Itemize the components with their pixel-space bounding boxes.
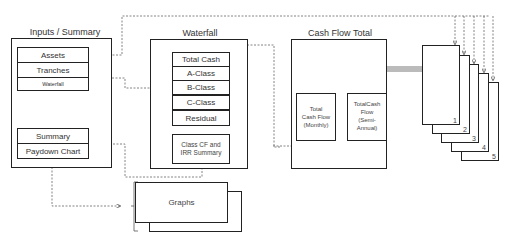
monthly-cash-flow-box: Total Cash Flow (Monthly)	[296, 93, 336, 141]
summary-line-2: IRR Summary	[173, 149, 229, 157]
inputs-summary-title: Inputs / Summary	[10, 27, 120, 37]
paydown-chart-cell: Paydown Chart	[17, 143, 89, 159]
semi-line-1: TotalCash	[348, 100, 386, 108]
page-5-number: 5	[492, 153, 496, 160]
waterfall-cell: Waterfall	[17, 77, 89, 91]
page-3-number: 3	[472, 135, 476, 142]
graphs-box: Graphs	[135, 182, 228, 223]
semi-line-2: Flow	[348, 108, 386, 116]
monthly-line-1: Total	[297, 105, 335, 113]
waterfall-title: Waterfall	[150, 28, 250, 38]
cash-flow-total-title: Cash Flow Total	[290, 28, 390, 38]
c-class-cell: C-Class	[172, 95, 230, 110]
class-cf-irr-summary-box: Class CF and IRR Summary	[172, 134, 230, 164]
monthly-line-3: (Monthly)	[297, 121, 335, 129]
page-1-number: 1	[453, 117, 457, 124]
tranches-cell: Tranches	[17, 62, 89, 78]
graphs-label: Graphs	[168, 198, 194, 207]
page-1: 1	[422, 45, 460, 125]
monthly-line-2: Cash Flow	[297, 113, 335, 121]
summary-line-1: Class CF and	[173, 141, 229, 149]
semi-annual-cash-flow-box: TotalCash Flow (Semi- Annual)	[347, 93, 387, 141]
b-class-cell: B-Class	[172, 80, 230, 95]
residual-cell: Residual	[172, 110, 230, 126]
semi-line-4: Annual)	[348, 124, 386, 132]
page-2-number: 2	[463, 126, 467, 133]
assets-cell: Assets	[17, 47, 89, 63]
semi-line-3: (Semi-	[348, 116, 386, 124]
page-4-number: 4	[482, 144, 486, 151]
a-class-cell: A-Class	[172, 66, 230, 81]
summary-cell: Summary	[17, 128, 89, 144]
total-cash-cell: Total Cash	[172, 52, 230, 67]
